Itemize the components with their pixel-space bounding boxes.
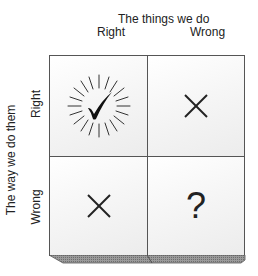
column-label-wrong: Wrong bbox=[190, 25, 225, 39]
column-axis-title: The things we do bbox=[118, 12, 209, 26]
column-label-right: Right bbox=[97, 25, 125, 39]
matrix-grid: ? bbox=[49, 55, 245, 256]
question-mark-icon: ? bbox=[186, 188, 206, 224]
cross-icon bbox=[183, 93, 209, 119]
cell-right-right bbox=[49, 55, 148, 157]
checkmark-burst-icon bbox=[64, 71, 134, 141]
cell-right-wrong bbox=[147, 55, 245, 157]
bottom-bevel bbox=[49, 255, 249, 267]
cell-wrong-wrong: ? bbox=[147, 156, 245, 256]
row-label-right: Right bbox=[29, 90, 43, 118]
row-axis-title: The way we do them bbox=[4, 105, 18, 216]
cross-icon bbox=[86, 193, 112, 219]
row-label-wrong: Wrong bbox=[29, 189, 43, 224]
cell-wrong-right bbox=[49, 156, 148, 256]
